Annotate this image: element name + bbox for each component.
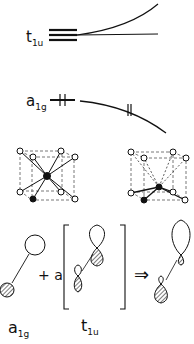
a1g-orbital-label: a1g xyxy=(8,320,29,339)
t1u-orbital-label: t1u xyxy=(81,318,99,337)
plus-a-label: + a xyxy=(38,268,63,282)
t1u-levels xyxy=(49,30,77,40)
mo-diagram xyxy=(0,0,194,344)
implies-arrow: ⇒ xyxy=(134,266,149,284)
